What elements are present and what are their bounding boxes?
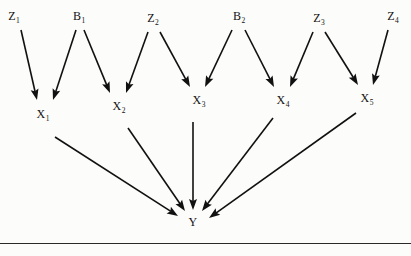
edge-shaft [128, 128, 180, 204]
node-base-letter: X [193, 93, 202, 107]
node-label-b1: B1 [73, 10, 85, 22]
node-label-z2: Z2 [147, 12, 158, 24]
arrowhead-icon [202, 200, 212, 211]
node-subscript: 2 [122, 106, 126, 115]
edge-shaft [245, 30, 270, 79]
edge-x1-to-y [55, 137, 178, 216]
node-label-y: Y [189, 216, 198, 228]
node-base-letter: X [113, 99, 122, 113]
node-subscript: 2 [241, 16, 245, 25]
node-subscript: 5 [370, 98, 374, 107]
arrowhead-icon [167, 207, 178, 216]
node-label-x4: X4 [277, 94, 290, 106]
node-label-z4: Z4 [387, 10, 398, 22]
node-subscript: 1 [81, 16, 85, 25]
node-subscript: 4 [286, 100, 290, 109]
edge-x2-to-y [128, 128, 185, 211]
edge-z2-to-x3 [160, 32, 190, 87]
edge-z2-to-x2 [126, 32, 148, 93]
node-label-b2: B2 [233, 10, 245, 22]
figure-canvas: Z1B1Z2B2Z3Z4X1X2X3X4X5Y [0, 0, 411, 256]
edge-b2-to-x4 [245, 30, 274, 87]
edge-shaft [55, 137, 171, 211]
node-base-letter: B [73, 9, 81, 23]
node-subscript: 2 [155, 18, 159, 27]
node-base-letter: B [233, 9, 241, 23]
node-subscript: 4 [395, 16, 399, 25]
node-label-z1: Z1 [8, 10, 19, 22]
arrowhead-icon [181, 75, 190, 87]
node-base-letter: Y [189, 215, 198, 229]
arrowhead-icon [209, 208, 220, 218]
node-label-x3: X3 [193, 94, 206, 106]
edge-shaft [129, 32, 148, 85]
edge-z1-to-x1 [21, 30, 38, 100]
node-base-letter: X [361, 91, 370, 105]
node-label-x1: X1 [37, 108, 50, 120]
node-label-z3: Z3 [313, 12, 324, 24]
edge-shaft [209, 30, 232, 79]
node-subscript: 1 [46, 114, 50, 123]
edge-x5-to-y [209, 113, 356, 218]
edge-shaft [56, 30, 76, 92]
edge-z3-to-x4 [290, 32, 313, 87]
node-subscript: 3 [202, 100, 206, 109]
edge-shaft [207, 118, 273, 204]
edge-b1-to-x1 [53, 30, 76, 100]
edge-shaft [160, 32, 186, 80]
edge-z3-to-x5 [325, 32, 358, 85]
edge-shaft [293, 32, 313, 79]
node-base-letter: X [277, 93, 286, 107]
node-subscript: 3 [321, 18, 325, 27]
causal-diagram-svg [0, 0, 411, 256]
edge-z4-to-x5 [372, 30, 388, 85]
node-base-letter: Z [8, 9, 16, 23]
edge-shaft [375, 30, 388, 77]
edge-shaft [325, 32, 354, 78]
node-base-letter: Z [313, 11, 321, 25]
edge-shaft [84, 30, 107, 85]
node-subscript: 1 [16, 16, 20, 25]
node-label-x2: X2 [113, 100, 126, 112]
edge-shaft [21, 30, 35, 92]
node-label-x5: X5 [361, 92, 374, 104]
node-base-letter: X [37, 107, 46, 121]
arrowhead-icon [175, 200, 185, 211]
bottom-horizontal-rule [0, 243, 411, 244]
arrowhead-icon [349, 74, 358, 85]
edge-shaft [216, 113, 356, 213]
node-base-letter: Z [387, 9, 395, 23]
edge-x3-to-y [189, 122, 197, 210]
edge-b2-to-x3 [205, 30, 232, 87]
node-base-letter: Z [147, 11, 155, 25]
edge-b1-to-x2 [84, 30, 110, 93]
